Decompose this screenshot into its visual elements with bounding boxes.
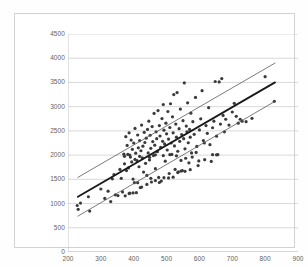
scatter-point bbox=[179, 169, 182, 172]
scatter-point bbox=[133, 158, 136, 161]
scatter-point bbox=[182, 137, 185, 140]
x-axis-tick-label: 400 bbox=[128, 256, 139, 263]
scatter-point bbox=[151, 125, 154, 128]
scatter-point bbox=[160, 117, 163, 120]
scatter-point bbox=[165, 132, 168, 135]
scatter-point bbox=[162, 176, 165, 179]
scatter-point bbox=[87, 195, 90, 198]
scatter-point bbox=[106, 190, 109, 193]
scatter-point bbox=[116, 194, 119, 197]
scatter-point bbox=[149, 177, 152, 180]
scatter-point bbox=[128, 131, 131, 134]
scatter-point bbox=[139, 149, 142, 152]
scatter-point bbox=[210, 160, 213, 163]
scatter-point bbox=[173, 144, 176, 147]
scatter-point bbox=[169, 102, 172, 105]
scatter-point bbox=[178, 140, 181, 143]
y-axis-tick-label: 1000 bbox=[50, 200, 65, 207]
scatter-point bbox=[264, 75, 267, 78]
scatter-point bbox=[183, 147, 186, 150]
scatter-point bbox=[166, 148, 169, 151]
scatter-point bbox=[118, 168, 121, 171]
scatter-point bbox=[123, 162, 126, 165]
scatter-point bbox=[167, 138, 170, 141]
scatter-point bbox=[126, 144, 129, 147]
scatter-point bbox=[176, 171, 179, 174]
scatter-point bbox=[123, 155, 126, 158]
scatter-point bbox=[175, 91, 178, 94]
y-axis-tick-label: 500 bbox=[54, 225, 65, 232]
scatter-point bbox=[224, 118, 227, 121]
scatter-point bbox=[171, 115, 174, 118]
scatter-point bbox=[212, 120, 215, 123]
scatter-point bbox=[168, 172, 171, 175]
scatter-point bbox=[130, 160, 133, 163]
scatter-point bbox=[99, 187, 102, 190]
scatter-point bbox=[198, 128, 201, 131]
scatter-point bbox=[146, 128, 149, 131]
scatter-point bbox=[154, 167, 157, 170]
scatter-point bbox=[137, 146, 140, 149]
scatter-point bbox=[219, 123, 222, 126]
scatter-point bbox=[131, 177, 134, 180]
scatter-point bbox=[141, 145, 144, 148]
x-axis-tick-label: 200 bbox=[62, 256, 73, 263]
scatter-point bbox=[129, 138, 132, 141]
y-axis-tick-label: 3500 bbox=[50, 79, 65, 86]
scatter-point bbox=[135, 191, 138, 194]
scatter-point bbox=[195, 151, 198, 154]
scatter-point bbox=[167, 176, 170, 179]
scatter-point bbox=[151, 140, 154, 143]
scatter-point bbox=[208, 143, 211, 146]
scatter-point bbox=[138, 155, 141, 158]
scatter-point bbox=[76, 204, 79, 207]
scatter-point bbox=[128, 154, 131, 157]
scatter-point bbox=[124, 194, 127, 197]
scatter-points bbox=[76, 75, 276, 213]
y-axis-tick-label: 2000 bbox=[50, 152, 65, 159]
lower-bound-line bbox=[78, 101, 275, 216]
scatter-point bbox=[142, 170, 145, 173]
scatter-point bbox=[168, 153, 171, 156]
x-axis-tick-label: 500 bbox=[161, 256, 172, 263]
scatter-point bbox=[134, 152, 137, 155]
scatter-point bbox=[158, 134, 161, 137]
scatter-point bbox=[147, 151, 150, 154]
scatter-plot-figure: 050010001500200025003000350040004500 200… bbox=[0, 0, 308, 267]
scatter-point bbox=[181, 119, 184, 122]
scatter-point bbox=[144, 162, 147, 165]
scatter-point bbox=[185, 124, 188, 127]
scatter-point bbox=[79, 201, 82, 204]
scatter-point bbox=[235, 115, 238, 118]
scatter-point bbox=[183, 170, 186, 173]
scatter-point bbox=[124, 135, 127, 138]
scatter-point bbox=[218, 80, 221, 83]
scatter-point bbox=[136, 133, 139, 136]
scatter-point bbox=[187, 161, 190, 164]
scatter-point bbox=[153, 144, 156, 147]
scatter-point bbox=[176, 150, 179, 153]
y-axis-tick-labels: 050010001500200025003000350040004500 bbox=[29, 34, 65, 252]
x-axis-tick-label: 300 bbox=[95, 256, 106, 263]
scatter-point bbox=[162, 103, 165, 106]
scatter-point bbox=[206, 132, 209, 135]
scatter-point bbox=[145, 183, 148, 186]
x-axis-tick-label: 900 bbox=[292, 256, 303, 263]
scatter-point bbox=[184, 157, 187, 160]
scatter-point bbox=[140, 123, 143, 126]
scatter-point bbox=[137, 165, 140, 168]
scatter-point bbox=[172, 176, 175, 179]
chart-frame: 050010001500200025003000350040004500 200… bbox=[14, 13, 295, 248]
scatter-point bbox=[162, 129, 165, 132]
scatter-point bbox=[155, 137, 158, 140]
y-axis-tick-label: 4000 bbox=[50, 55, 65, 62]
scatter-point bbox=[200, 89, 203, 92]
scatter-point bbox=[131, 148, 134, 151]
y-axis-tick-label: 3000 bbox=[50, 103, 65, 110]
scatter-point bbox=[203, 158, 206, 161]
scatter-point bbox=[156, 109, 159, 112]
scatter-point bbox=[120, 177, 123, 180]
scatter-point bbox=[152, 112, 155, 115]
scatter-point bbox=[133, 127, 136, 130]
scatter-point bbox=[150, 180, 153, 183]
